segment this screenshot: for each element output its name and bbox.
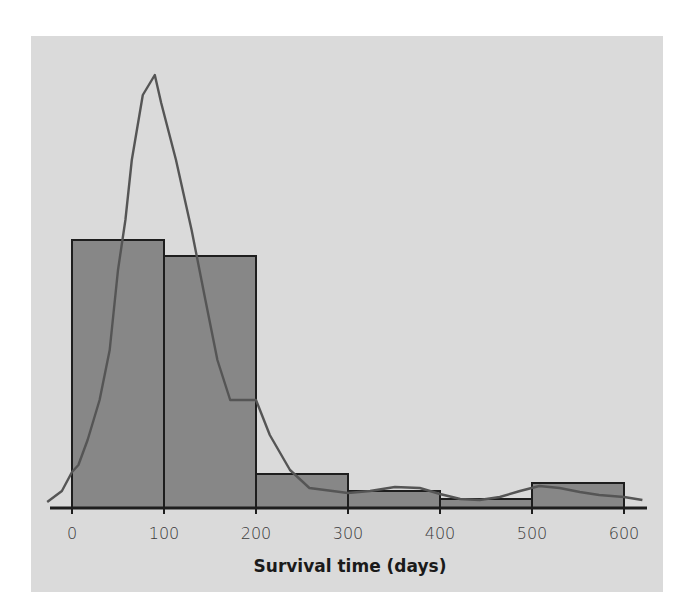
x-tick-label: 200	[241, 524, 272, 543]
x-tick-label: 300	[333, 524, 364, 543]
x-axis-tick-labels: 0 100 200 300 400 500 600	[67, 524, 639, 543]
x-tick-label: 400	[425, 524, 456, 543]
histogram-bar	[348, 491, 440, 508]
histogram-bars	[72, 240, 624, 508]
x-tick-label: 0	[67, 524, 77, 543]
x-tick-label: 100	[149, 524, 180, 543]
x-tick-label: 500	[517, 524, 548, 543]
histogram-bar	[164, 256, 256, 508]
histogram-chart: 0 100 200 300 400 500 600 Survival time …	[0, 0, 692, 612]
x-axis-title: Survival time (days)	[254, 556, 447, 576]
x-tick-label: 600	[609, 524, 640, 543]
